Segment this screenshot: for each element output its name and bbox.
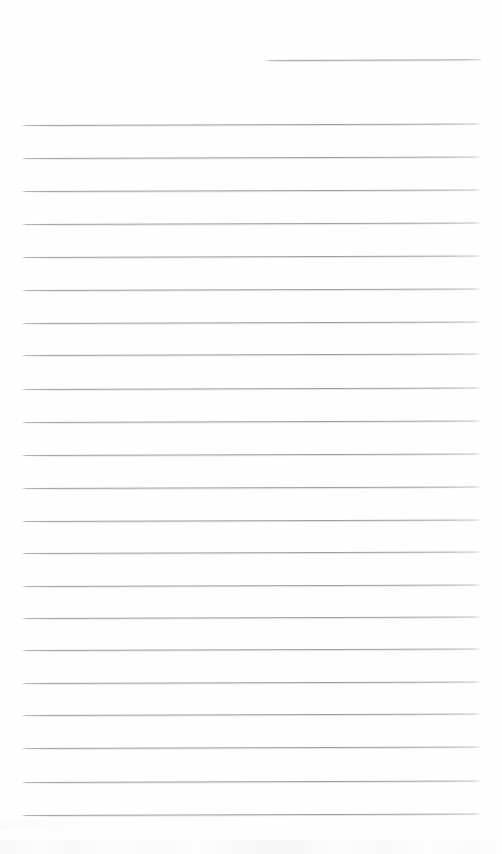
rule-line (21, 322, 482, 324)
rule-line (21, 157, 482, 159)
rule-line (21, 781, 482, 783)
rule-line (21, 289, 482, 291)
rule-line (21, 520, 482, 522)
rule-line (21, 190, 482, 192)
paper-page (0, 0, 502, 854)
rule-line (21, 421, 482, 423)
rule-line (21, 649, 482, 651)
rule-line (21, 256, 482, 258)
rule-line (21, 223, 482, 225)
rule-line (21, 714, 482, 716)
rule-line (21, 682, 482, 684)
paper-surface (0, 0, 502, 854)
rule-line (21, 585, 482, 587)
rule-line (21, 487, 482, 489)
scan-edge-artifact (0, 840, 502, 854)
rule-line (21, 454, 482, 456)
rule-line (21, 354, 482, 356)
rule-line (21, 747, 482, 749)
rule-line (21, 814, 482, 816)
scan-smudge-artifact (0, 820, 180, 830)
rule-line (21, 552, 482, 554)
rule-line (21, 124, 482, 126)
rule-line (21, 617, 482, 619)
header-rule-line (264, 59, 482, 61)
rule-line (21, 388, 482, 390)
